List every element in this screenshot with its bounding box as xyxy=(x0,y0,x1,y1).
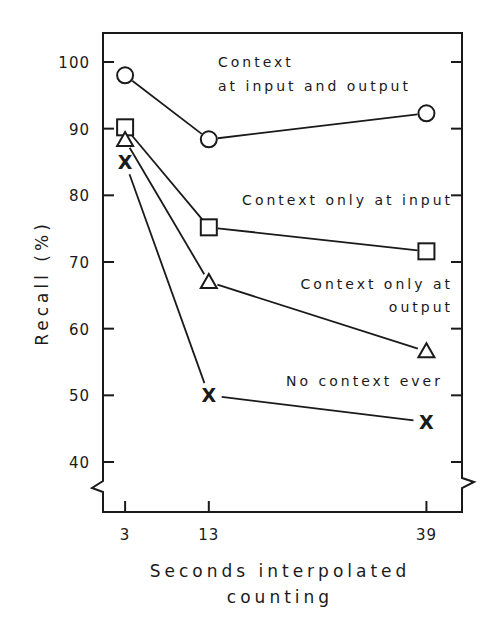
plot-border xyxy=(92,33,474,512)
series-square xyxy=(117,119,434,259)
y-tick-label: 80 xyxy=(69,187,90,205)
square-marker-icon xyxy=(418,243,434,259)
series-label-x: No context ever xyxy=(286,373,443,389)
series-line-segment xyxy=(129,174,204,383)
x-marker-icon: X xyxy=(201,384,216,406)
recall-line-chart: 405060708090100 31339 XXX Contextat inpu… xyxy=(0,0,492,634)
series-label-triangle: output xyxy=(389,299,453,315)
circle-marker-icon xyxy=(117,67,133,83)
y-tick-label: 60 xyxy=(69,321,90,339)
triangle-marker-icon xyxy=(418,343,434,357)
x-tick-label: 13 xyxy=(198,526,219,544)
plot-frame xyxy=(92,33,474,512)
series-line-segment xyxy=(132,81,201,134)
series-labels: Contextat input and outputContext only a… xyxy=(218,54,453,389)
series-line-segment xyxy=(222,397,414,421)
y-tick-label: 100 xyxy=(58,54,90,72)
series-line-segment xyxy=(130,148,205,275)
x-axis-title-line2: counting xyxy=(227,587,333,607)
triangle-marker-icon xyxy=(201,274,217,288)
circle-marker-icon xyxy=(201,131,217,147)
x-axis-ticks: 31339 xyxy=(120,501,437,544)
series-label-circle: Context xyxy=(218,54,294,70)
y-tick-label: 90 xyxy=(69,121,90,139)
series-triangle xyxy=(117,132,434,357)
y-tick-label: 40 xyxy=(69,454,90,472)
series-label-square: Context only at input xyxy=(242,192,453,208)
series-label-circle: at input and output xyxy=(218,78,411,94)
x-axis-title-line1: Seconds interpolated xyxy=(150,561,411,581)
series-line-segment xyxy=(218,114,418,138)
x-marker-icon: X xyxy=(419,411,434,433)
x-tick-label: 39 xyxy=(416,526,437,544)
series-line-segment xyxy=(217,285,417,349)
y-axis-title: Recall (%) xyxy=(32,220,52,346)
y-tick-label: 50 xyxy=(69,387,90,405)
series-label-triangle: Context only at xyxy=(301,276,453,292)
x-marker-icon: X xyxy=(118,151,133,173)
circle-marker-icon xyxy=(418,105,434,121)
series-line-segment xyxy=(218,228,418,250)
square-marker-icon xyxy=(201,219,217,235)
y-tick-label: 70 xyxy=(69,254,90,272)
x-tick-label: 3 xyxy=(120,526,131,544)
